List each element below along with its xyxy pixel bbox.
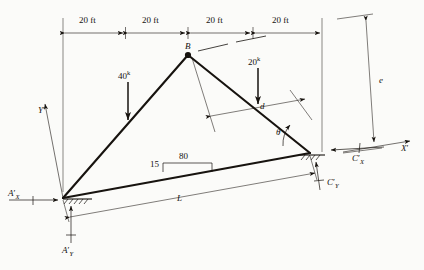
diagram-canvas xyxy=(0,0,424,270)
reaction-label-ay: A′Y xyxy=(62,246,73,257)
frame-members xyxy=(63,55,310,198)
angle-label-theta: θ xyxy=(276,128,280,137)
d-witness-left xyxy=(192,58,215,132)
load-label-20k-unit: k xyxy=(257,55,260,62)
reaction-label-ay-sub: Y xyxy=(69,250,73,257)
dim-label-d: d xyxy=(260,102,265,111)
engineering-diagram: 20 ft 20 ft 20 ft 20 ft B 40k 20k d θ 80… xyxy=(0,0,424,270)
construction-dashes xyxy=(198,36,266,51)
axis-label-y-prime: Y′ xyxy=(38,106,45,115)
applied-loads xyxy=(128,68,258,120)
support-a xyxy=(63,199,92,204)
reaction-arrows xyxy=(9,143,384,243)
reaction-cy-tick xyxy=(314,180,324,181)
slope-label-rise: 15 xyxy=(150,160,159,169)
reaction-label-ax: A′X xyxy=(8,189,19,200)
load-label-40k-unit: k xyxy=(127,69,130,76)
axis-label-y-prime-mark: ′ xyxy=(43,105,45,115)
reaction-cy-arrow xyxy=(316,162,320,190)
joint-b-node xyxy=(185,52,191,58)
dim-label-e: e xyxy=(379,76,383,85)
dim-label-segment-3: 20 ft xyxy=(206,16,223,25)
global-axes xyxy=(45,104,410,198)
support-c xyxy=(300,155,325,160)
L-witness-left xyxy=(63,200,69,222)
dim-label-segment-4: 20 ft xyxy=(272,16,289,25)
reaction-label-ax-sub: X xyxy=(15,193,19,200)
dim-label-L: L xyxy=(177,194,182,203)
dim-label-segment-1: 20 ft xyxy=(79,16,96,25)
support-a-hatching xyxy=(64,199,88,204)
axis-y-prime-arrow xyxy=(45,104,63,198)
axis-x-prime-arrow xyxy=(343,141,410,152)
d-witness-right xyxy=(290,90,312,120)
dim-label-segment-2: 20 ft xyxy=(142,16,159,25)
slope-triangle xyxy=(163,163,212,172)
axis-label-x-prime-mark: ′ xyxy=(407,143,409,153)
extension-lines xyxy=(63,18,322,192)
dash-b-1 xyxy=(198,44,228,51)
reaction-label-cy: C′Y xyxy=(327,178,339,189)
reaction-label-cx-sub: X xyxy=(360,158,364,165)
top-dimension-chain xyxy=(65,27,320,39)
dash-b-2 xyxy=(236,36,266,42)
e-dim-line xyxy=(366,21,374,142)
reaction-label-cy-sub: Y xyxy=(335,182,339,189)
e-witness-top xyxy=(337,14,373,19)
reaction-cx-tick xyxy=(359,143,360,153)
offset-dimension-d xyxy=(192,58,312,132)
span-dimension-L xyxy=(63,156,317,222)
slope-label-run: 80 xyxy=(179,152,188,161)
reaction-label-cx: C′X xyxy=(352,154,364,165)
L-dim-line xyxy=(70,173,315,217)
height-dimension-e xyxy=(337,14,382,153)
axis-label-x-prime: X′ xyxy=(401,144,408,153)
load-label-20k-value: 20 xyxy=(248,57,257,67)
load-label-40k-value: 40 xyxy=(118,71,127,81)
joint-label-b: B xyxy=(185,42,191,51)
load-label-20k: 20k xyxy=(248,56,260,67)
load-label-40k: 40k xyxy=(118,70,130,81)
